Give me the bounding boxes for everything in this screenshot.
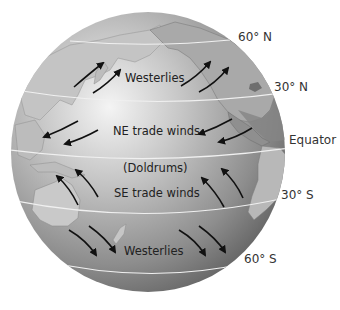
- label-lat-30s: 30° S: [281, 189, 314, 201]
- label-lat-60n: 60° N: [238, 31, 272, 43]
- label-westerlies-north: Westerlies: [125, 73, 185, 85]
- label-lat-30n: 30° N: [274, 81, 308, 93]
- label-lat-60s: 60° S: [244, 253, 277, 265]
- label-ne-trade-winds: NE trade winds: [113, 126, 200, 138]
- label-lat-equator: Equator: [289, 134, 336, 146]
- label-se-trade-winds: SE trade winds: [114, 188, 200, 200]
- label-doldrums: (Doldrums): [123, 163, 188, 175]
- globe-graphic: [0, 0, 340, 310]
- wind-belts-diagram: Westerlies NE trade winds (Doldrums) SE …: [0, 0, 340, 310]
- label-westerlies-south: Westerlies: [124, 246, 184, 258]
